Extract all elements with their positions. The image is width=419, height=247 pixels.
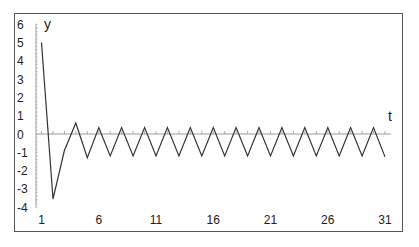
line-chart: 6543210-1-2-3-4 161116212631 y t	[0, 0, 419, 247]
svg-text:21: 21	[264, 213, 278, 227]
svg-text:31: 31	[378, 213, 392, 227]
svg-text:1: 1	[38, 213, 45, 227]
y-axis	[35, 24, 38, 207]
svg-text:0: 0	[17, 128, 24, 142]
svg-text:5: 5	[17, 36, 24, 50]
y-tick-labels: 6543210-1-2-3-4	[17, 18, 28, 215]
svg-text:11: 11	[150, 213, 163, 227]
y-axis-label: y	[44, 16, 51, 32]
svg-text:-2: -2	[17, 164, 28, 178]
svg-text:26: 26	[321, 213, 335, 227]
data-series-line	[42, 43, 386, 200]
svg-text:-3: -3	[17, 182, 28, 196]
x-tick-labels: 161116212631	[38, 213, 392, 227]
svg-text:6: 6	[95, 213, 102, 227]
svg-text:16: 16	[207, 213, 221, 227]
svg-text:6: 6	[17, 18, 24, 32]
svg-text:2: 2	[17, 91, 24, 105]
x-axis	[36, 131, 391, 134]
svg-text:1: 1	[17, 109, 24, 123]
svg-text:4: 4	[17, 54, 24, 68]
svg-text:-4: -4	[17, 201, 28, 215]
x-axis-label: t	[388, 108, 392, 124]
svg-text:3: 3	[17, 73, 24, 87]
svg-text:-1: -1	[17, 146, 28, 160]
